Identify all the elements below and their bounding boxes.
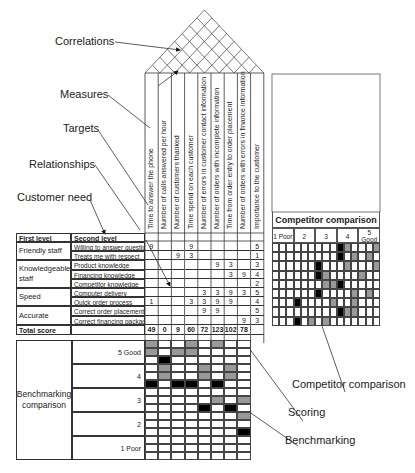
relationship-score: 3	[237, 288, 250, 297]
competitor-cell	[322, 298, 329, 307]
benchmark-cell	[158, 356, 171, 364]
competitor-cell	[351, 317, 358, 326]
competitor-cell	[279, 271, 286, 280]
benchmark-cell	[158, 436, 171, 444]
competitor-cell	[279, 298, 286, 307]
relationship-score	[145, 288, 158, 297]
relationship-score	[158, 242, 171, 251]
competitor-cell	[366, 252, 373, 261]
competitor-scale-label: 5 Good	[358, 228, 380, 243]
benchmark-cell	[198, 396, 211, 404]
benchmark-cell	[211, 420, 224, 428]
competitor-cell	[294, 243, 301, 252]
competitor-cell	[337, 243, 344, 252]
competitor-cell	[366, 298, 373, 307]
competitor-cell	[373, 252, 380, 261]
relationship-score	[185, 279, 198, 288]
total-score-value: 0	[158, 325, 171, 335]
relationship-score: 5	[251, 242, 264, 251]
relationship-score	[237, 260, 250, 269]
competitor-cell	[294, 289, 301, 298]
benchmark-cell	[198, 420, 211, 428]
competitor-cell	[286, 289, 293, 298]
relationship-score: 3	[185, 297, 198, 306]
relationship-score	[158, 260, 171, 269]
competitor-cell	[351, 261, 358, 270]
benchmark-cell	[211, 388, 224, 396]
benchmark-cell	[185, 420, 198, 428]
measure-label: Importance to the customer	[253, 77, 260, 229]
second-level-need: Willing to answer questions	[71, 242, 145, 251]
benchmark-cell	[158, 452, 171, 460]
benchmark-cell	[185, 452, 198, 460]
relationship-score: 5	[251, 288, 264, 297]
competitor-cell	[366, 280, 373, 289]
relationship-score	[211, 279, 224, 288]
second-level-need: Product knowledge	[71, 260, 145, 269]
benchmark-cell	[158, 444, 171, 452]
competitor-cell	[286, 261, 293, 270]
benchmark-cell	[198, 364, 211, 372]
benchmark-cell	[211, 372, 224, 380]
competitor-cell	[344, 298, 351, 307]
relationship-score	[185, 288, 198, 297]
benchmark-cell	[198, 412, 211, 420]
competitor-cell	[272, 289, 279, 298]
competitor-cell	[344, 289, 351, 298]
benchmark-cell	[224, 396, 237, 404]
benchmark-cell	[145, 348, 158, 356]
benchmark-cell	[237, 388, 250, 396]
callout-customer-need: Customer need	[17, 191, 92, 203]
competitor-scale-label: 4	[337, 228, 359, 243]
relationship-score: 3	[251, 260, 264, 269]
first-level-group: Speed	[16, 288, 71, 306]
benchmark-cell	[171, 380, 184, 388]
competitor-cell	[373, 271, 380, 280]
relationship-score: 3	[224, 270, 237, 279]
benchmark-cell	[145, 380, 158, 388]
competitor-cell	[358, 298, 365, 307]
relationship-score	[224, 251, 237, 260]
relationship-score	[198, 279, 211, 288]
relationship-score	[145, 306, 158, 315]
measure-label: Number of customers thanked	[173, 77, 180, 229]
benchmark-cell	[185, 404, 198, 412]
competitor-cell	[308, 289, 315, 298]
benchmark-cell	[145, 340, 158, 348]
benchmark-cell	[198, 452, 211, 460]
relationship-score: 2	[251, 279, 264, 288]
benchmark-cell	[171, 364, 184, 372]
competitor-cell	[351, 307, 358, 316]
competitor-cell	[351, 252, 358, 261]
benchmark-cell	[185, 380, 198, 388]
benchmark-cell	[171, 412, 184, 420]
competitor-cell	[272, 280, 279, 289]
benchmark-cell	[171, 428, 184, 436]
competitor-cell	[301, 298, 308, 307]
benchmark-cell	[211, 340, 224, 348]
competitor-cell	[373, 307, 380, 316]
benchmark-cell	[171, 372, 184, 380]
competitor-cell	[330, 252, 337, 261]
callout-measures: Measures	[60, 88, 108, 100]
relationship-score: 3	[198, 288, 211, 297]
competitor-cell	[344, 261, 351, 270]
relationship-score	[158, 279, 171, 288]
callout-benchmarking: Benchmarking	[285, 434, 355, 446]
relationship-score	[145, 279, 158, 288]
benchmark-level-label: 3	[72, 388, 145, 412]
relationship-score	[171, 316, 184, 325]
benchmark-cell	[158, 428, 171, 436]
benchmark-cell	[158, 372, 171, 380]
competitor-cell	[272, 317, 279, 326]
competitor-cell	[351, 298, 358, 307]
competitor-cell	[358, 289, 365, 298]
competitor-cell	[286, 317, 293, 326]
competitor-cell	[272, 261, 279, 270]
header-second-level: Second level	[71, 233, 145, 242]
competitor-cell	[308, 271, 315, 280]
competitor-cell	[358, 252, 365, 261]
callout-relationships: Relationships	[29, 158, 95, 170]
benchmark-cell	[198, 380, 211, 388]
competitor-cell	[301, 261, 308, 270]
